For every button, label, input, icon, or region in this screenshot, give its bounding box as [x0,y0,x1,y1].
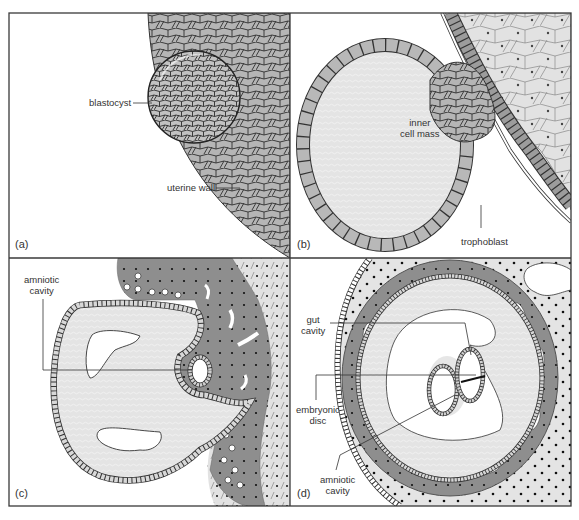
panel-label-d: (d) [297,487,310,499]
label-embryonic-disc-line2: disc [296,415,340,426]
label-amniotic-cavity-d-line2: cavity [320,485,355,496]
label-embryonic-disc: embryonic disc [296,404,340,426]
label-inner-cell-mass: inner cell mass [400,117,440,139]
label-uterine-wall: uterine wall [167,182,215,193]
label-gut-cavity: gut cavity [301,314,325,336]
label-blastocyst: blastocyst [89,97,131,108]
label-embryonic-disc-line1: embryonic [296,404,340,415]
label-gut-cavity-line1: gut [301,314,325,325]
panel-label-b: (b) [297,238,310,250]
label-inner-cell-mass-line1: inner [400,117,440,128]
label-inner-cell-mass-line2: cell mass [400,128,440,139]
embryo-implantation-figure: blastocyst uterine wall (a) inner cell m… [0,0,579,520]
label-trophoblast: trophoblast [461,236,508,247]
panel-c [43,258,290,506]
label-amniotic-cavity-c-line2: cavity [24,285,59,296]
label-amniotic-cavity-d: amniotic cavity [320,474,355,496]
figure-svg [0,0,579,520]
panel-d [290,258,571,506]
panel-a [133,13,290,258]
panel-label-c: (c) [15,487,28,499]
label-amniotic-cavity-d-line1: amniotic [320,474,355,485]
panel-label-a: (a) [15,238,28,250]
label-gut-cavity-line2: cavity [301,325,325,336]
label-amniotic-cavity-c: amniotic cavity [24,274,59,296]
label-amniotic-cavity-c-line1: amniotic [24,274,59,285]
